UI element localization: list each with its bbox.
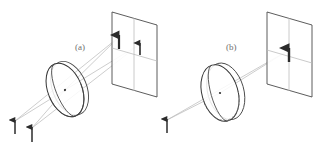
screen-a [112,12,157,97]
figure-canvas: (a) [0,0,322,150]
panel-a-label: (a) [75,42,85,52]
panel-b-label: (b) [226,42,237,52]
optics-figure: (a) [0,0,322,150]
